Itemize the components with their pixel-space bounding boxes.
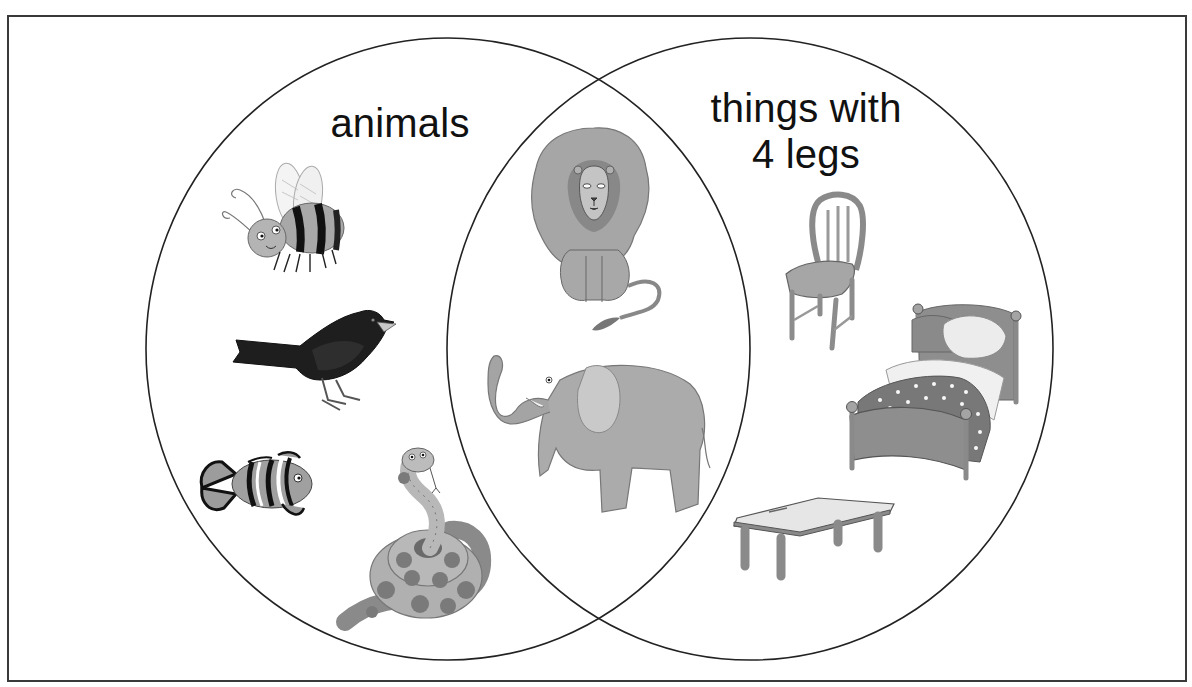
- four-legs-label: things with 4 legs: [686, 85, 926, 177]
- blackbird-icon: [233, 310, 396, 410]
- bed-icon: [847, 304, 1022, 478]
- snake-icon: [345, 448, 482, 622]
- clownfish-icon: [201, 452, 312, 514]
- table-icon: [734, 498, 894, 576]
- animals-label: animals: [290, 100, 510, 146]
- four-legs-label-line-1: things with: [686, 85, 926, 131]
- lion-icon: [532, 128, 660, 331]
- venn-diagram: [0, 0, 1192, 687]
- four-legs-label-line-2: 4 legs: [686, 131, 926, 177]
- bee-icon: [223, 161, 344, 272]
- elephant-icon: [488, 356, 710, 512]
- chair-icon: [786, 195, 863, 348]
